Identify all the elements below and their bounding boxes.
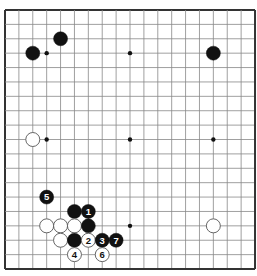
white-stone[interactable] [26, 133, 40, 147]
black-stone[interactable] [67, 233, 81, 247]
stone-disc [67, 219, 81, 233]
black-stone[interactable] [81, 219, 95, 233]
star-point [128, 137, 132, 141]
move-number: 1 [86, 206, 92, 217]
star-point [128, 224, 132, 228]
black-stone[interactable] [54, 32, 68, 46]
stone-disc [206, 219, 220, 233]
move-number: 2 [86, 235, 91, 246]
star-point [44, 137, 48, 141]
black-stone[interactable] [26, 46, 40, 60]
stone-disc [67, 204, 81, 218]
move-number: 5 [44, 191, 50, 202]
stone-disc [26, 46, 40, 60]
black-stone[interactable]: 5 [40, 190, 54, 204]
white-stone[interactable] [206, 219, 220, 233]
star-point [128, 51, 132, 55]
move-number: 3 [100, 235, 105, 246]
black-stone[interactable]: 7 [109, 233, 123, 247]
white-stone[interactable]: 2 [81, 233, 95, 247]
stone-disc [81, 219, 95, 233]
black-stone[interactable]: 3 [95, 233, 109, 247]
white-stone[interactable]: 6 [95, 248, 109, 262]
move-number: 7 [113, 235, 118, 246]
stone-disc [54, 233, 68, 247]
stone-disc [54, 219, 68, 233]
black-stone[interactable] [206, 46, 220, 60]
go-board[interactable]: 5123746 [0, 0, 257, 276]
star-point [211, 137, 215, 141]
move-number: 6 [100, 249, 105, 260]
move-number: 4 [72, 249, 78, 260]
stone-disc [40, 219, 54, 233]
black-stone[interactable] [67, 204, 81, 218]
star-point [44, 51, 48, 55]
white-stone[interactable] [54, 233, 68, 247]
stone-disc [54, 32, 68, 46]
white-stone[interactable] [54, 219, 68, 233]
stones-layer: 5123746 [26, 32, 221, 262]
white-stone[interactable] [40, 219, 54, 233]
white-stone[interactable]: 4 [67, 248, 81, 262]
stone-disc [26, 133, 40, 147]
stone-disc [206, 46, 220, 60]
black-stone[interactable]: 1 [81, 204, 95, 218]
stone-disc [67, 233, 81, 247]
white-stone[interactable] [67, 219, 81, 233]
